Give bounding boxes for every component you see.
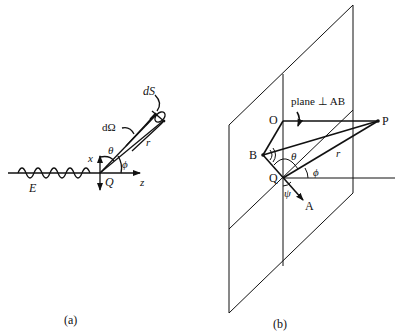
label-B: B — [249, 148, 257, 162]
cone-tube — [126, 119, 160, 151]
label-domega: dΩ — [102, 121, 116, 133]
point-B-dot — [261, 153, 265, 157]
line-QP — [283, 121, 378, 178]
label-ds: dS — [143, 84, 155, 98]
label-r-b: r — [336, 147, 341, 159]
angle-arc-b2 — [273, 148, 276, 162]
label-z: z — [139, 176, 145, 188]
label-phi-b: ϕ — [313, 166, 319, 178]
label-theta: θ — [108, 144, 114, 156]
ds-pointer — [155, 95, 160, 111]
label-x: x — [87, 152, 93, 164]
label-r: r — [146, 136, 151, 148]
domega-pointer — [122, 128, 134, 134]
caption-a: (a) — [64, 313, 77, 327]
figure-a-labels: E Q x z θ ϕ dΩ dS r (a) — [28, 84, 155, 327]
plane-pointer — [297, 112, 299, 126]
label-O: O — [269, 113, 278, 127]
label-Q: Q — [105, 175, 114, 189]
figure-b-labels: plane ⊥ AB O P B Q A θ ϕ ψ r (b) — [249, 95, 389, 331]
label-Q: Q — [269, 171, 278, 185]
angle-arc-b1 — [270, 150, 272, 160]
label-phi: ϕ — [122, 158, 128, 170]
label-A: A — [305, 199, 314, 213]
label-plane: plane ⊥ AB — [291, 95, 345, 107]
phi-arc-b — [305, 168, 308, 178]
label-theta-b: θ — [291, 150, 297, 162]
caption-b: (b) — [273, 317, 287, 331]
point-P-dot — [376, 119, 380, 123]
figure-b-thick — [263, 112, 378, 200]
label-P: P — [382, 114, 389, 128]
label-psi-b: ψ — [284, 187, 291, 199]
label-E: E — [28, 181, 37, 195]
diagram-canvas: E Q x z θ ϕ dΩ dS r (a) plane ⊥ — [0, 0, 401, 336]
